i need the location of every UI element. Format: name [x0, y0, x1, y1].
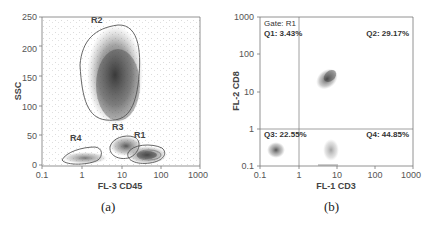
svg-text:1: 1 [296, 170, 301, 180]
svg-text:100: 100 [153, 170, 168, 180]
q4-population [323, 139, 339, 161]
figure-canvas: R2 R3 R1 R4 250 200 150 100 50 0 0.1 1 1… [0, 0, 430, 228]
gate-label-r2: R2 [91, 15, 103, 25]
gate-label-r3: R3 [112, 122, 124, 132]
svg-text:100: 100 [239, 49, 254, 59]
gate-label: Gate: R1 [264, 19, 297, 28]
svg-text:10: 10 [244, 87, 254, 97]
svg-text:10: 10 [117, 170, 127, 180]
svg-text:1: 1 [249, 124, 254, 134]
plot-a-x-label: FL-3 CD45 [98, 181, 143, 191]
svg-text:0.1: 0.1 [254, 170, 267, 180]
plot-a: R2 R3 R1 R4 250 200 150 100 50 0 0.1 1 1… [13, 12, 208, 191]
quadrant-label-q3: Q3: 22.55% [264, 130, 307, 139]
svg-text:100: 100 [22, 102, 37, 112]
svg-text:10: 10 [332, 170, 342, 180]
plot-a-y-ticks: 250 200 150 100 50 0 [22, 12, 37, 170]
plot-a-y-label: SSC [13, 81, 23, 100]
svg-text:1000: 1000 [234, 12, 254, 22]
caption-a: (a) [101, 199, 115, 215]
plot-a-x-ticks: 0.1 1 10 100 1000 [36, 170, 208, 180]
gate-label-r1: R1 [134, 130, 146, 140]
plot-b-x-ticks: 0.1 1 10 100 1000 [254, 170, 421, 180]
plot-b: 1000 100 10 1 0.1 0.1 1 10 100 1000 Gate… [231, 12, 421, 191]
svg-text:0: 0 [32, 160, 37, 170]
svg-text:1000: 1000 [188, 170, 208, 180]
svg-text:1: 1 [79, 170, 84, 180]
svg-text:150: 150 [22, 73, 37, 83]
svg-text:50: 50 [27, 131, 37, 141]
quadrant-label-q2: Q2: 29.17% [366, 29, 409, 38]
svg-text:100: 100 [367, 170, 382, 180]
svg-text:250: 250 [22, 12, 37, 22]
q3-population [267, 142, 285, 158]
plot-b-y-label: FL-2 CD8 [231, 71, 241, 111]
caption-b: (b) [324, 199, 339, 215]
quadrant-label-q1: Q1: 3.43% [264, 29, 302, 38]
svg-text:1000: 1000 [401, 170, 421, 180]
svg-text:0.1: 0.1 [36, 170, 49, 180]
plot-b-x-label: FL-1 CD3 [316, 181, 356, 191]
quadrant-label-q4: Q4: 44.85% [366, 130, 409, 139]
gate-label-r4: R4 [70, 133, 82, 143]
svg-text:0.1: 0.1 [241, 161, 254, 171]
svg-text:200: 200 [22, 44, 37, 54]
